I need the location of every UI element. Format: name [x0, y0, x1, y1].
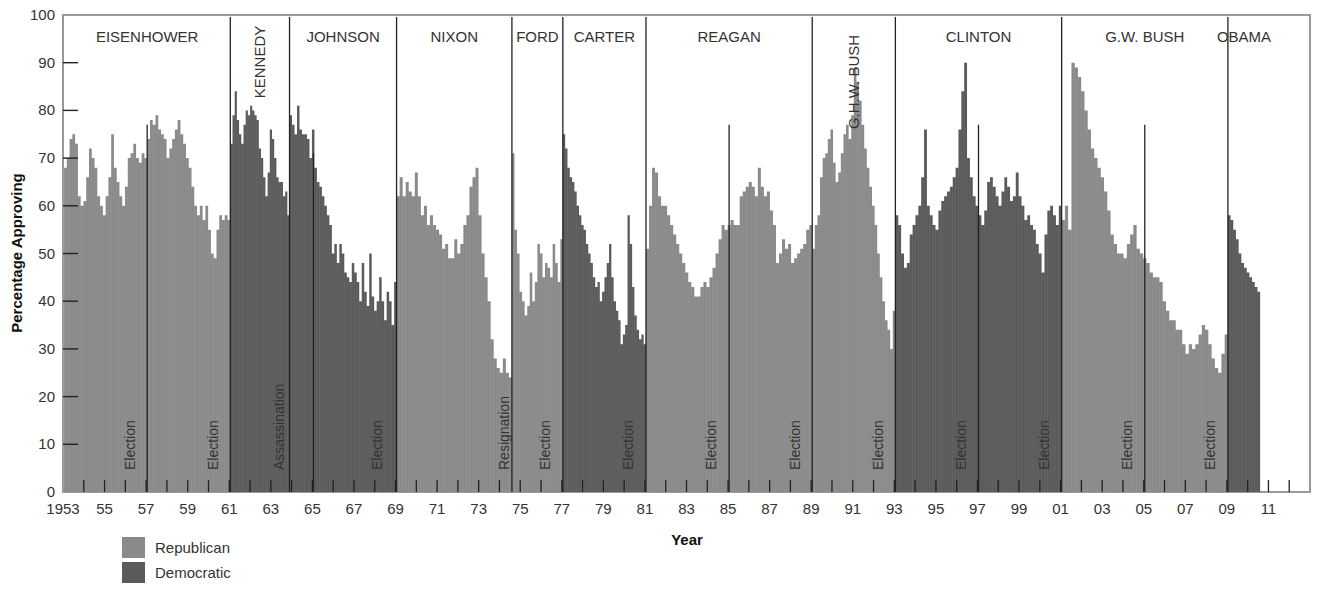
x-tick-label: 11 — [1261, 500, 1277, 517]
x-tick-label: 93 — [886, 500, 903, 517]
x-tick-label: 07 — [1177, 500, 1194, 517]
x-tick-label: 59 — [179, 500, 196, 517]
x-tick-label: 97 — [969, 500, 986, 517]
event-label: Election — [787, 420, 803, 470]
event-label: Election — [953, 420, 969, 470]
event-label: Election — [703, 420, 719, 470]
x-tick-label: 63 — [262, 500, 279, 517]
x-tick-label: 91 — [844, 500, 861, 517]
democratic-swatch — [122, 562, 145, 583]
y-tick-label: 70 — [38, 149, 55, 166]
y-tick-label: 80 — [38, 101, 55, 118]
y-tick-label: 30 — [38, 340, 55, 357]
y-axis-title: Percentage Approving — [8, 173, 25, 332]
x-tick-label: 05 — [1135, 500, 1152, 517]
president-label: KENNEDY — [251, 26, 268, 99]
event-label: Election — [122, 420, 138, 470]
event-label: Election — [620, 420, 636, 470]
x-tick-label: 73 — [470, 500, 487, 517]
event-label: Election — [205, 420, 221, 470]
president-label: EISENHOWER — [96, 28, 199, 45]
x-tick-label: 99 — [1011, 500, 1028, 517]
x-tick-label: 83 — [678, 500, 695, 517]
x-tick-label: 1953 — [46, 500, 79, 517]
x-tick-label: 95 — [928, 500, 945, 517]
x-tick-label: 87 — [761, 500, 778, 517]
legend-label: Democratic — [155, 564, 231, 581]
president-label: REAGAN — [697, 28, 760, 45]
x-tick-label: 81 — [637, 500, 654, 517]
x-tick-label: 67 — [346, 500, 363, 517]
event-label: Assassination — [271, 384, 287, 470]
x-tick-label: 75 — [512, 500, 529, 517]
y-tick-label: 10 — [38, 435, 55, 452]
y-tick-label: 50 — [38, 245, 55, 262]
y-tick-label: 40 — [38, 292, 55, 309]
event-label: Election — [537, 420, 553, 470]
x-tick-label: 77 — [553, 500, 570, 517]
x-tick-label: 55 — [96, 500, 113, 517]
x-tick-label: 85 — [720, 500, 737, 517]
x-tick-label: 57 — [138, 500, 155, 517]
y-tick-label: 100 — [30, 6, 55, 23]
approval-chart: EISENHOWERKENNEDYJOHNSONNIXONFORDCARTERR… — [0, 0, 1325, 597]
republican-swatch — [122, 537, 145, 558]
x-tick-label: 03 — [1094, 500, 1111, 517]
y-tick-label: 90 — [38, 54, 55, 71]
president-label: CLINTON — [946, 28, 1012, 45]
x-tick-label: 69 — [387, 500, 404, 517]
legend: Republican Democratic — [122, 535, 231, 585]
event-label: Election — [870, 420, 886, 470]
x-tick-label: 71 — [429, 500, 446, 517]
event-label: Election — [1202, 420, 1218, 470]
president-label: FORD — [516, 28, 559, 45]
y-tick-label: 60 — [38, 197, 55, 214]
event-label: Election — [1036, 420, 1052, 470]
president-label: OBAMA — [1217, 28, 1271, 45]
president-label: JOHNSON — [306, 28, 379, 45]
y-tick-label: 0 — [47, 483, 55, 500]
event-label: Election — [369, 420, 385, 470]
event-label: Resignation — [496, 396, 512, 470]
event-label: Election — [1119, 420, 1135, 470]
x-tick-label: 09 — [1219, 500, 1236, 517]
x-tick-label: 89 — [803, 500, 820, 517]
president-label: G.W. BUSH — [1105, 28, 1184, 45]
president-label: CARTER — [574, 28, 636, 45]
y-tick-label: 20 — [38, 388, 55, 405]
x-axis-title: Year — [671, 531, 703, 548]
legend-item-republican: Republican — [122, 535, 231, 560]
x-tick-label: 01 — [1052, 500, 1069, 517]
x-tick-label: 79 — [595, 500, 612, 517]
legend-item-democratic: Democratic — [122, 560, 231, 585]
x-tick-label: 61 — [221, 500, 238, 517]
president-label: NIXON — [430, 28, 478, 45]
x-tick-label: 65 — [304, 500, 321, 517]
legend-label: Republican — [155, 539, 230, 556]
president-label: G.H.W. BUSH — [845, 35, 862, 129]
